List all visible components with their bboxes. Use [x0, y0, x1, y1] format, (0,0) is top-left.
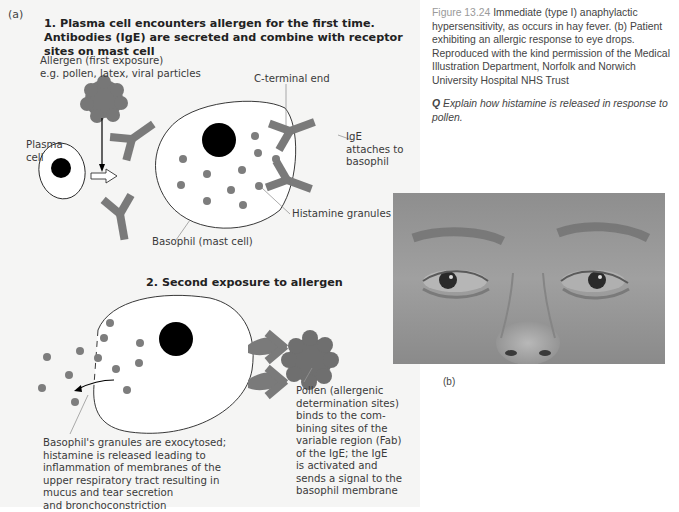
basophil-label: Basophil (mast cell): [152, 236, 253, 249]
pollen-icon: [281, 330, 339, 390]
allergen-particle-icon: [80, 75, 128, 123]
panel-a-label: (a): [8, 8, 23, 21]
figure-number: Figure 13.24: [432, 7, 490, 18]
panel-b-label: (b): [443, 376, 455, 387]
question-text: Explain how histamine is released in res…: [432, 98, 668, 123]
allergen-label: Allergen (first exposure) e.g. pollen, l…: [40, 55, 201, 80]
exocytosis-description: Basophil's granules are exocytosed; hist…: [43, 437, 226, 512]
basophil-nucleus: [202, 123, 236, 157]
step-1-title: 1. Plasma cell encounters allergen for t…: [44, 17, 424, 59]
c-terminal-label: C-terminal end: [254, 73, 330, 86]
question-marker: Q: [432, 98, 440, 109]
caption-text: Immediate (type I) anaphylactic hypersen…: [432, 7, 670, 86]
plasma-cell-label: Plasma cell: [26, 139, 63, 164]
hollow-arrow-right-icon: [91, 169, 117, 183]
activated-basophil-nucleus: [159, 322, 193, 356]
ige-label: IgE attaches to basophil: [346, 131, 404, 169]
figure-question: Q Explain how histamine is released in r…: [432, 97, 676, 124]
histamine-granules-label: Histamine granules: [292, 208, 391, 221]
antibody-icon: [100, 192, 142, 243]
step-2-title: 2. Second exposure to allergen: [146, 276, 343, 289]
activated-basophil-cell: [94, 295, 253, 433]
patient-face-image: [393, 193, 665, 364]
patient-eyes-photo: [393, 193, 665, 364]
figure-caption: Figure 13.24 Immediate (type I) anaphyla…: [432, 6, 676, 88]
pollen-description: Pollen (allergenic determination sites) …: [296, 385, 402, 498]
